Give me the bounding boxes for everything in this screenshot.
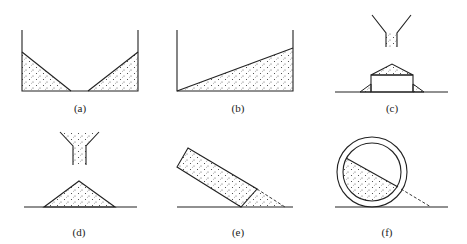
panel-label: (e) <box>232 226 245 239</box>
panel-label: (f) <box>382 226 393 239</box>
panel-label: (d) <box>73 226 86 239</box>
block <box>371 75 413 92</box>
funnel-stream <box>386 33 397 47</box>
panel-label: (a) <box>74 102 87 115</box>
right-side-pile <box>413 84 424 92</box>
funnel-left-wall <box>372 15 386 47</box>
dashed-tangent <box>401 189 431 207</box>
cone-pile <box>44 181 115 207</box>
funnel-right-wall <box>397 15 411 47</box>
panel-f: (f) <box>330 137 448 239</box>
cone-pile-on-block <box>371 64 413 75</box>
tilted-box <box>177 148 257 207</box>
panel-d: (d) <box>24 132 137 239</box>
panel-c: (c) <box>335 15 448 115</box>
funnel-stream <box>62 132 97 164</box>
panel-b: (b) <box>177 30 293 115</box>
panel-label: (b) <box>232 102 245 115</box>
panel-e: (e) <box>177 148 293 239</box>
panel-label: (c) <box>386 102 399 115</box>
left-side-pile <box>360 84 371 92</box>
panel-a: (a) <box>22 30 138 115</box>
repose-angle-diagram: (a) (b) (c) (d) (e) <box>0 0 467 244</box>
